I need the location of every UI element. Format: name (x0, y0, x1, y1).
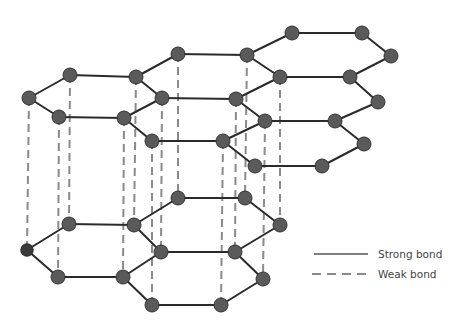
weak-bond (27, 98, 29, 250)
top-layer-carbon-atom (216, 134, 230, 148)
bottom-layer-carbon-atom (127, 218, 141, 232)
bottom-layer-atoms (21, 191, 287, 312)
legend-strong-bond-label: Strong bond (378, 248, 442, 260)
top-layer-carbon-atom (22, 91, 36, 105)
top-layer-carbon-atom (355, 26, 369, 40)
top-layer-carbon-atom (258, 114, 272, 128)
graphite-structure-diagram: Strong bond Weak bond (0, 0, 458, 329)
top-layer-strong-bond (162, 98, 236, 99)
top-layer-carbon-atom (384, 49, 398, 63)
bottom-layer-carbon-atom (21, 244, 33, 256)
top-layer-carbon-atom (248, 159, 262, 173)
top-layer-strong-bond (70, 75, 136, 77)
bottom-layer-carbon-atom (273, 218, 287, 232)
bottom-layer-strong-bond (235, 225, 280, 252)
bottom-layer-carbon-atom (154, 245, 168, 259)
bottom-layer-carbon-atom (238, 191, 252, 205)
bottom-layer-carbon-atom (145, 298, 159, 312)
weak-bond (245, 55, 247, 198)
top-layer-strong-bond (247, 33, 292, 55)
weak-bond (58, 117, 59, 277)
legend: Strong bond Weak bond (312, 248, 442, 280)
top-layer-carbon-atom (315, 159, 329, 173)
weak-bond (123, 118, 124, 277)
top-layer-carbon-atom (155, 91, 169, 105)
top-layer-carbon-atom (273, 70, 287, 84)
top-layer-strong-bonds (29, 33, 391, 166)
weak-bond (235, 99, 236, 252)
top-layer-strong-bond (178, 54, 247, 55)
top-layer-carbon-atom (145, 134, 159, 148)
top-layer-strong-bond (59, 117, 124, 118)
bottom-layer-carbon-atom (62, 217, 76, 231)
weak-bond (69, 75, 70, 224)
weak-bond (134, 77, 136, 225)
bottom-layer-strong-bond (134, 198, 178, 225)
top-layer-carbon-atom (229, 92, 243, 106)
bottom-layer-carbon-atom (171, 191, 185, 205)
weak-bond (161, 98, 162, 252)
top-layer-carbon-atom (343, 70, 357, 84)
bottom-layer-carbon-atom (228, 245, 242, 259)
legend-weak-bond-label: Weak bond (378, 268, 437, 280)
top-layer-carbon-atom (328, 114, 342, 128)
top-layer-carbon-atom (129, 70, 143, 84)
weak-bond (263, 121, 265, 279)
top-layer-carbon-atom (357, 137, 371, 151)
top-layer-carbon-atom (117, 111, 131, 125)
top-layer-carbon-atom (63, 68, 77, 82)
top-layer-carbon-atom (285, 26, 299, 40)
bottom-layer-carbon-atom (51, 270, 65, 284)
weak-bond (221, 141, 223, 305)
bottom-layer-carbon-atom (256, 272, 270, 286)
bottom-layer-carbon-atom (116, 270, 130, 284)
top-layer-carbon-atom (371, 95, 385, 109)
bottom-layer-strong-bond (69, 224, 134, 225)
bottom-layer-carbon-atom (214, 298, 228, 312)
top-layer-carbon-atom (171, 47, 185, 61)
top-layer-carbon-atom (240, 48, 254, 62)
top-layer-carbon-atom (52, 110, 66, 124)
